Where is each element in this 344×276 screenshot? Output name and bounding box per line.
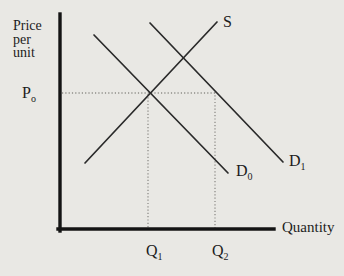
quantity-new-sub: 2 xyxy=(224,251,229,262)
price-level-label: Po xyxy=(22,85,36,101)
supply-curve-label: S xyxy=(223,14,232,30)
y-axis-title-line-3: unit xyxy=(13,46,42,60)
quantity-initial-base: Q xyxy=(146,242,158,259)
quantity-new-label: Q2 xyxy=(212,243,229,259)
price-level-base: P xyxy=(22,84,31,101)
demand-shifted-sub: 1 xyxy=(301,161,306,172)
price-level-sub: o xyxy=(31,93,36,104)
supply-demand-figure: Price per unit Po S D0 D1 Quantity Q1 Q2 xyxy=(0,0,344,276)
x-axis-title: Quantity xyxy=(282,220,335,235)
demand-initial-sub: 0 xyxy=(248,171,253,182)
quantity-initial-sub: 1 xyxy=(158,251,163,262)
y-axis-title-line-2: per xyxy=(13,33,42,47)
demand-initial-label: D0 xyxy=(236,163,253,179)
demand-curve-initial xyxy=(94,35,228,173)
demand-shifted-label: D1 xyxy=(289,153,306,169)
y-axis-title: Price per unit xyxy=(13,19,42,60)
quantity-initial-label: Q1 xyxy=(146,243,163,259)
demand-initial-base: D xyxy=(236,162,248,179)
demand-curve-shifted xyxy=(150,23,283,162)
y-axis-title-line-1: Price xyxy=(13,19,42,33)
quantity-new-base: Q xyxy=(212,242,224,259)
demand-shifted-base: D xyxy=(289,152,301,169)
